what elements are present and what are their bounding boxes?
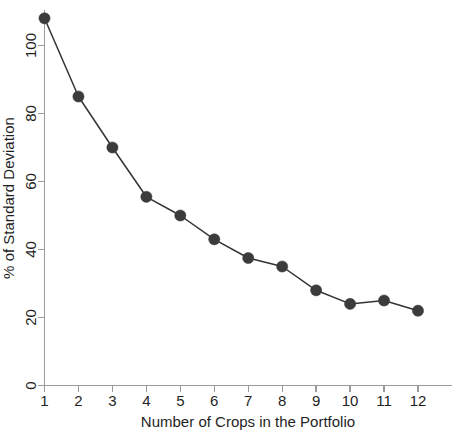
x-tick-label: 8 <box>278 392 286 409</box>
x-tick-label: 2 <box>74 392 82 409</box>
x-axis-tick-labels: 123456789101112 <box>40 392 426 409</box>
line-chart: 020406080100 123456789101112 Number of C… <box>0 0 462 436</box>
y-tick-label: 40 <box>22 241 39 258</box>
y-tick-label: 60 <box>22 173 39 190</box>
x-axis-title: Number of Crops in the Portfolio <box>141 413 355 430</box>
x-tick-label: 5 <box>176 392 184 409</box>
data-point <box>412 305 423 316</box>
data-point <box>243 252 254 263</box>
y-tick-label: 0 <box>22 381 39 389</box>
y-tick-label: 20 <box>22 309 39 326</box>
x-axis-ticks <box>45 386 419 393</box>
y-axis-tick-labels: 020406080100 <box>22 33 39 390</box>
x-tick-label: 12 <box>410 392 427 409</box>
series-line-standard-deviation <box>45 18 419 310</box>
x-tick-label: 9 <box>312 392 320 409</box>
x-tick-label: 1 <box>40 392 48 409</box>
data-point <box>141 191 152 202</box>
data-point <box>39 13 50 24</box>
x-tick-label: 4 <box>142 392 150 409</box>
data-point <box>378 295 389 306</box>
x-tick-label: 10 <box>342 392 359 409</box>
data-point <box>344 298 355 309</box>
data-point <box>311 285 322 296</box>
data-point <box>209 234 220 245</box>
y-axis-ticks <box>38 46 45 386</box>
series-markers <box>39 13 424 317</box>
y-axis-title: % of Standard Deviation <box>0 117 17 279</box>
data-point <box>175 210 186 221</box>
data-point <box>73 91 84 102</box>
chart-figure: 020406080100 123456789101112 Number of C… <box>0 0 462 436</box>
data-point <box>277 261 288 272</box>
y-tick-label: 80 <box>22 105 39 122</box>
x-tick-label: 11 <box>376 392 392 409</box>
x-tick-label: 6 <box>210 392 218 409</box>
x-tick-label: 3 <box>108 392 116 409</box>
data-point <box>107 142 118 153</box>
x-tick-label: 7 <box>244 392 252 409</box>
y-tick-label: 100 <box>22 33 39 58</box>
